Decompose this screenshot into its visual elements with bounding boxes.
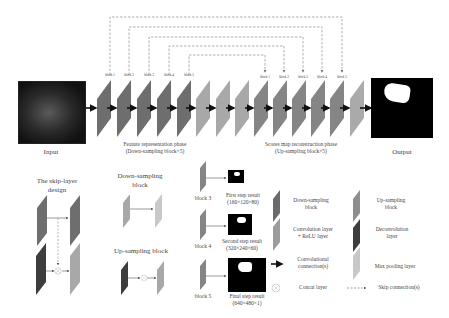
up-phase-label: Scores map reconstruction phase (Up-samp… (246, 141, 356, 155)
up-block-label: block 5 (332, 75, 352, 79)
diagram-canvas (0, 0, 449, 318)
second-step-caption: Second step result (320×240×60) (216, 238, 268, 252)
down-block-label: block 1 (100, 73, 120, 77)
input-label: Input (18, 148, 84, 157)
skip-layer-design-graphic (36, 195, 80, 295)
skip-connections (110, 17, 342, 75)
second-step-image (228, 214, 252, 235)
final-step-image (228, 258, 266, 292)
first-step-image (228, 170, 244, 183)
step-blocks (200, 161, 226, 290)
up-block-label: block 3 (293, 75, 313, 79)
step-block-label: block 3 (192, 195, 214, 202)
skip-layer-design-title: The skip-layer design (22, 177, 92, 195)
down-sampling-block-graphic (123, 194, 162, 228)
input-ultrasound-image (18, 81, 86, 144)
down-block-label: block 4 (159, 73, 179, 77)
bottleneck-blocks (196, 80, 249, 137)
step-block-label: block 4 (192, 243, 214, 250)
legend-max-pooling-layer: Max pooling layer (364, 263, 426, 270)
legend-deconvolution-layer: Deconvolution layer (366, 226, 418, 240)
down-sampling-block-title: Down-sampling block (105, 172, 175, 190)
down-block-label: block 2 (119, 73, 139, 77)
legend-conv-relu-layer: Convolution layer + ReLU layer (283, 226, 343, 240)
step-block-label: block 5 (192, 293, 214, 300)
output-label: Output (371, 148, 433, 157)
down-block-label: block 3 (139, 73, 159, 77)
output-segmentation-image (371, 78, 433, 138)
up-block-label: block 2 (274, 75, 294, 79)
up-block-label: block 1 (255, 75, 275, 79)
legend-up-sampling-block: Up-sampling block (366, 197, 416, 211)
up-sampling-block-title: Up-sampling block (105, 247, 177, 256)
legend-skip-connection: Skip connection(s) (369, 284, 429, 291)
legend-concat-layer: Concat layer (290, 284, 336, 291)
output-mask-region (383, 82, 411, 103)
down-block-label: block 5 (179, 73, 199, 77)
up-block-label: block 4 (312, 75, 332, 79)
up-sampling-block-graphic (121, 261, 164, 295)
first-step-caption: First step result (160×120×80) (218, 192, 268, 206)
final-step-caption: Final step result (640×480×1) (222, 293, 272, 307)
down-phase-label: Feature representation phase (Down-sampl… (100, 141, 210, 155)
legend-convolutional-connection: Convolutional connection(s) (288, 256, 338, 270)
legend-down-sampling-block: Down-sampling block (286, 197, 336, 211)
